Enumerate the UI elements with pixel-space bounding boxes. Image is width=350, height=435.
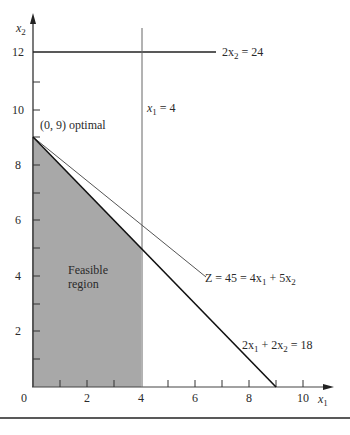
x-axis-arrow-icon bbox=[323, 384, 334, 390]
x-tick-label: 2 bbox=[84, 391, 90, 405]
feasible-region-label: Feasible bbox=[68, 263, 108, 277]
constraint-x1-4-label: x1 = 4 bbox=[146, 101, 176, 117]
feasible-region bbox=[32, 137, 141, 387]
x-axis-title: x1 bbox=[317, 392, 328, 408]
objective-label: Z = 45 = 4x1 + 5x2 bbox=[205, 271, 296, 287]
x-tick-label: 8 bbox=[246, 391, 252, 405]
lp-graph: 2 4 6 8 10 12 0 2 4 6 8 10 x2 x1 (0, 9) … bbox=[0, 0, 350, 435]
x-tick-label: 4 bbox=[138, 391, 144, 405]
y-axis-arrow-icon bbox=[30, 13, 36, 24]
constraint-2x2-24-label: 2x2 = 24 bbox=[222, 45, 263, 61]
y-tick-label: 2 bbox=[15, 324, 21, 338]
y-tick-label: 10 bbox=[12, 103, 24, 117]
x-tick-label: 10 bbox=[297, 391, 309, 405]
x-tick-label: 0 bbox=[21, 391, 27, 405]
y-tick-label: 6 bbox=[15, 213, 21, 227]
y-tick-label: 8 bbox=[15, 158, 21, 172]
constraint-2x1-2x2-18-label: 2x1 + 2x2 = 18 bbox=[242, 338, 313, 354]
optimal-point-label: (0, 9) optimal bbox=[40, 118, 106, 132]
x-tick-label: 6 bbox=[192, 391, 198, 405]
y-tick-label: 12 bbox=[12, 45, 24, 59]
y-axis-title: x2 bbox=[15, 21, 26, 37]
feasible-region-label: region bbox=[68, 277, 99, 291]
y-tick-label: 4 bbox=[15, 269, 21, 283]
